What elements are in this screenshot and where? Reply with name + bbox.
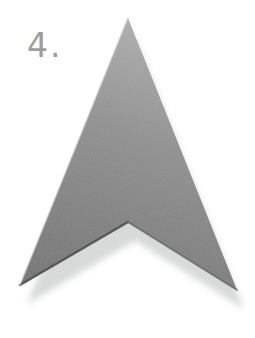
step-illustration-card: 4. xyxy=(0,0,255,338)
step-number-label: 4. xyxy=(27,26,63,65)
arrow-up-icon: 4. xyxy=(0,0,255,338)
